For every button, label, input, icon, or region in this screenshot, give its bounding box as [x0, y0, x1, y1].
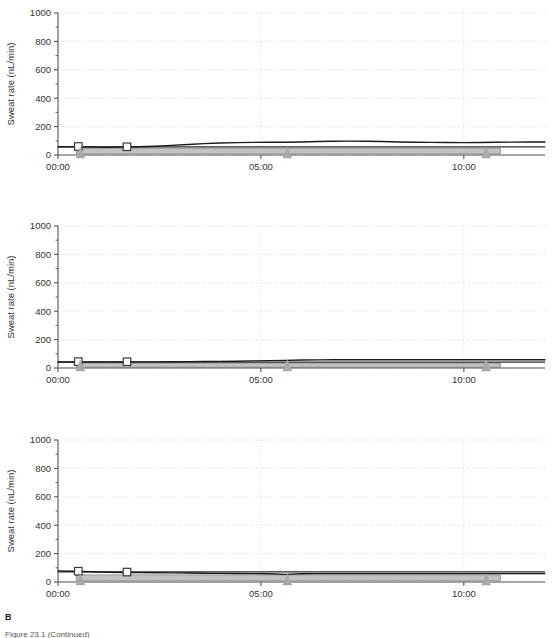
y-tick-label-800: 800	[35, 36, 51, 47]
x-tick-label-05:00: 05:00	[249, 588, 273, 599]
y-tick-label-1000: 1000	[30, 220, 51, 231]
chart-panel-2: 0200400600800100000:0005:0010:00Sweat ra…	[0, 427, 553, 617]
y-axis-label: Sweat rate (nL/min)	[5, 256, 16, 339]
x-tick-label-05:00: 05:00	[249, 374, 273, 385]
marker-square	[123, 358, 131, 366]
y-tick-label-1000: 1000	[30, 7, 51, 18]
x-tick-label-00:00: 00:00	[46, 374, 70, 385]
y-tick-label-200: 200	[35, 334, 51, 345]
y-tick-label-400: 400	[35, 520, 51, 531]
panel-letter-b: B	[5, 612, 12, 622]
x-tick-label-00:00: 00:00	[46, 161, 70, 172]
y-tick-label-600: 600	[35, 277, 51, 288]
y-tick-label-400: 400	[35, 93, 51, 104]
chart-panel-0: 0200400600800100000:0005:0010:00Sweat ra…	[0, 0, 553, 190]
y-tick-label-600: 600	[35, 491, 51, 502]
x-tick-label-00:00: 00:00	[46, 588, 70, 599]
y-axis-label: Sweat rate (nL/min)	[5, 470, 16, 553]
chart-svg-1: 0200400600800100000:0005:0010:00Sweat ra…	[0, 213, 553, 403]
chart-svg-0: 0200400600800100000:0005:0010:00Sweat ra…	[0, 0, 553, 190]
figure-caption: Figure 23.1 (Continued)	[5, 630, 545, 638]
y-tick-label-0: 0	[46, 149, 51, 160]
y-tick-label-200: 200	[35, 121, 51, 132]
y-tick-label-200: 200	[35, 548, 51, 559]
y-tick-label-600: 600	[35, 64, 51, 75]
x-tick-label-05:00: 05:00	[249, 161, 273, 172]
marker-square	[123, 568, 131, 576]
marker-square	[75, 567, 83, 575]
chart-panel-1: 0200400600800100000:0005:0010:00Sweat ra…	[0, 213, 553, 403]
x-tick-label-10:00: 10:00	[452, 588, 476, 599]
marker-square	[123, 143, 131, 151]
y-tick-label-400: 400	[35, 306, 51, 317]
y-axis-label: Sweat rate (nL/min)	[5, 43, 16, 126]
y-tick-label-800: 800	[35, 249, 51, 260]
x-tick-label-10:00: 10:00	[452, 374, 476, 385]
x-tick-label-10:00: 10:00	[452, 161, 476, 172]
chart-svg-2: 0200400600800100000:0005:0010:00Sweat ra…	[0, 427, 553, 617]
figure-container: 0200400600800100000:0005:0010:00Sweat ra…	[0, 0, 553, 638]
y-tick-label-1000: 1000	[30, 434, 51, 445]
y-tick-label-0: 0	[46, 576, 51, 587]
y-tick-label-0: 0	[46, 362, 51, 373]
y-tick-label-800: 800	[35, 463, 51, 474]
